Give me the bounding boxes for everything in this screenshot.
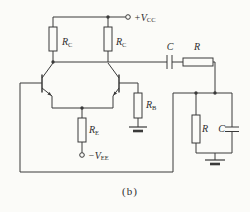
figure-caption: (b) — [122, 185, 138, 198]
circuit-diagram: +VCC RC RC C R RB RE R C −VEE (b) — [0, 0, 250, 212]
junction-dot — [80, 106, 83, 109]
schematic-canvas: +VCC RC RC C R RB RE R C −VEE (b) — [0, 0, 250, 212]
junction-dot — [51, 60, 54, 63]
diagram-background — [0, 0, 250, 212]
load-cap-label: C — [218, 123, 225, 134]
series-resistor-label: R — [193, 41, 200, 52]
junction-dot — [194, 91, 197, 94]
vee-terminal — [80, 153, 85, 158]
load-resistor-label: R — [201, 123, 208, 134]
junction-dot — [213, 91, 216, 94]
coupling-cap-label: C — [167, 41, 174, 52]
vcc-terminal — [126, 15, 131, 20]
junction-dot — [106, 15, 109, 18]
